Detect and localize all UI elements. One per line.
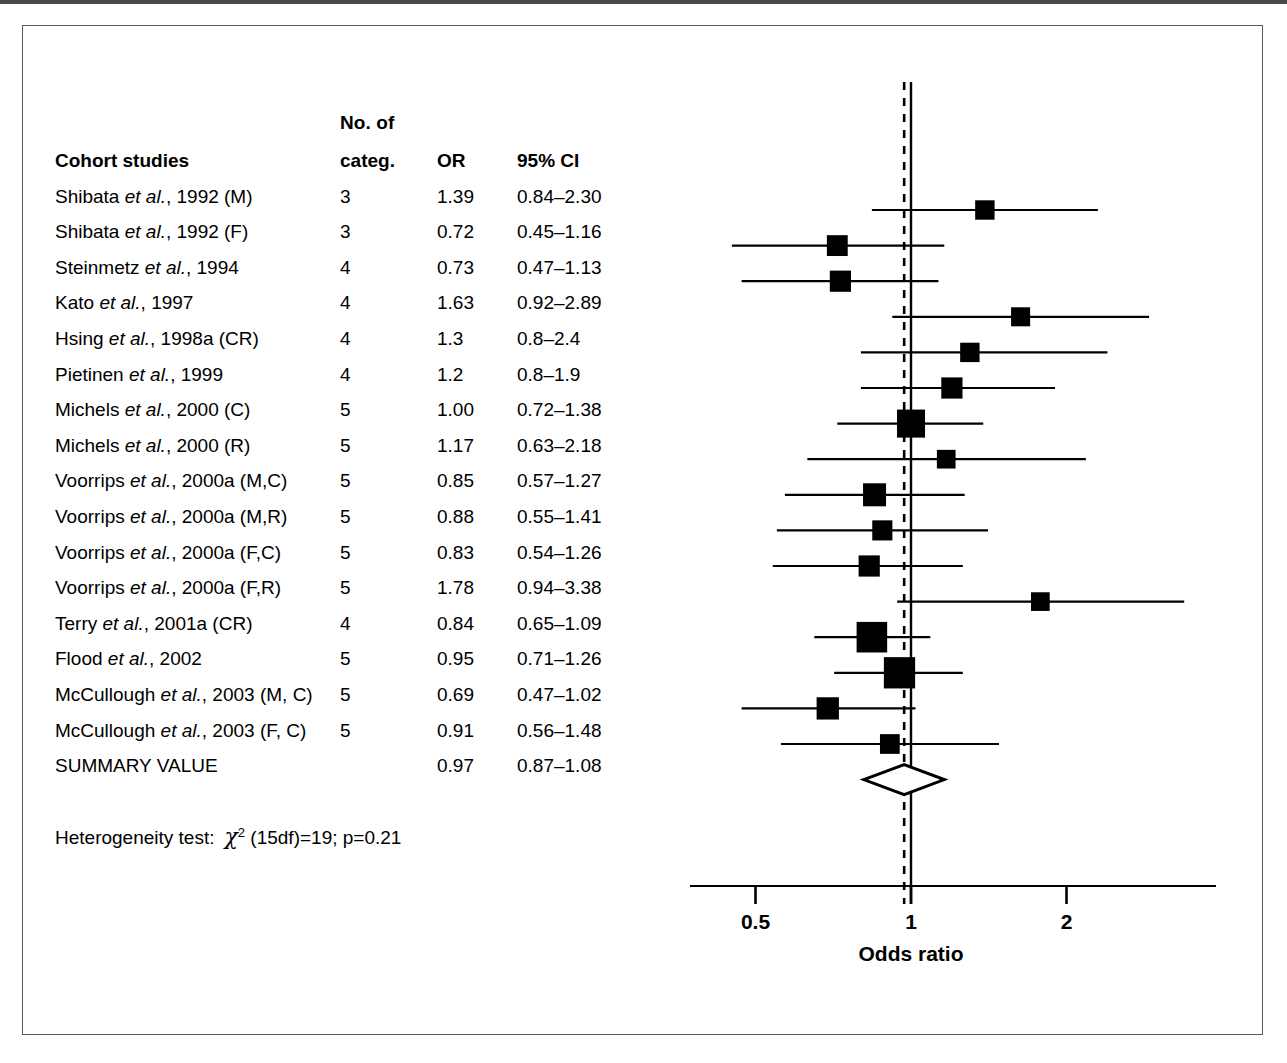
study-categories: 5 bbox=[340, 720, 351, 742]
study-confidence-interval: 0.56–1.48 bbox=[517, 720, 602, 742]
table-header-row: Cohort studiescateg.OR95% CI bbox=[55, 150, 655, 186]
study-categories: 4 bbox=[340, 257, 351, 279]
study-confidence-interval: 0.94–3.38 bbox=[517, 577, 602, 599]
study-confidence-interval: 0.57–1.27 bbox=[517, 470, 602, 492]
study-name: Steinmetz et al., 1994 bbox=[55, 257, 239, 279]
study-odds-ratio: 1.2 bbox=[437, 364, 463, 386]
table-row: Voorrips et al., 2000a (M,R)50.880.55–1.… bbox=[55, 506, 655, 542]
study-odds-ratio: 1.17 bbox=[437, 435, 474, 457]
study-categories: 5 bbox=[340, 542, 351, 564]
study-confidence-interval: 0.92–2.89 bbox=[517, 292, 602, 314]
table-row: Shibata et al., 1992 (F)30.720.45–1.16 bbox=[55, 221, 655, 257]
study-confidence-interval: 0.8–1.9 bbox=[517, 364, 580, 386]
study-odds-ratio: 0.69 bbox=[437, 684, 474, 706]
study-name: McCullough et al., 2003 (M, C) bbox=[55, 684, 313, 706]
study-odds-ratio: 0.91 bbox=[437, 720, 474, 742]
study-categories: 5 bbox=[340, 577, 351, 599]
table-row: Terry et al., 2001a (CR)40.840.65–1.09 bbox=[55, 613, 655, 649]
study-name: Kato et al., 1997 bbox=[55, 292, 193, 314]
study-odds-ratio: 1.39 bbox=[437, 186, 474, 208]
study-name: Shibata et al., 1992 (F) bbox=[55, 221, 248, 243]
study-categories: 3 bbox=[340, 186, 351, 208]
study-name: McCullough et al., 2003 (F, C) bbox=[55, 720, 306, 742]
study-confidence-interval: 0.8–2.4 bbox=[517, 328, 580, 350]
study-confidence-interval: 0.87–1.08 bbox=[517, 755, 602, 777]
study-name: Voorrips et al., 2000a (F,C) bbox=[55, 542, 281, 564]
study-categories: 4 bbox=[340, 364, 351, 386]
heterogeneity-label: Heterogeneity test: bbox=[55, 827, 214, 848]
study-categories: 4 bbox=[340, 292, 351, 314]
table-row: Voorrips et al., 2000a (M,C)50.850.57–1.… bbox=[55, 470, 655, 506]
study-name: Flood et al., 2002 bbox=[55, 648, 202, 670]
table-row: Flood et al., 200250.950.71–1.26 bbox=[55, 648, 655, 684]
study-name: Pietinen et al., 1999 bbox=[55, 364, 223, 386]
study-confidence-interval: 0.45–1.16 bbox=[517, 221, 602, 243]
heterogeneity-note: Heterogeneity test:χ2 (15df)=19; p=0.21 bbox=[55, 824, 401, 849]
table-row: Voorrips et al., 2000a (F,C)50.830.54–1.… bbox=[55, 542, 655, 578]
study-categories: 5 bbox=[340, 470, 351, 492]
table-row: Voorrips et al., 2000a (F,R)51.780.94–3.… bbox=[55, 577, 655, 613]
study-odds-ratio: 0.88 bbox=[437, 506, 474, 528]
study-confidence-interval: 0.47–1.13 bbox=[517, 257, 602, 279]
study-name: Michels et al., 2000 (R) bbox=[55, 435, 250, 457]
study-odds-ratio: 0.84 bbox=[437, 613, 474, 635]
study-odds-ratio: 1.63 bbox=[437, 292, 474, 314]
column-header-no-of: No. of bbox=[340, 112, 394, 134]
table-row: Steinmetz et al., 199440.730.47–1.13 bbox=[55, 257, 655, 293]
study-name: Voorrips et al., 2000a (M,R) bbox=[55, 506, 287, 528]
chi-exponent: 2 bbox=[238, 825, 245, 840]
study-odds-ratio: 0.97 bbox=[437, 755, 474, 777]
table-row: McCullough et al., 2003 (F, C)50.910.56–… bbox=[55, 720, 655, 756]
study-odds-ratio: 1.78 bbox=[437, 577, 474, 599]
table-row: Michels et al., 2000 (R)51.170.63–2.18 bbox=[55, 435, 655, 471]
study-categories: 5 bbox=[340, 399, 351, 421]
study-name: Hsing et al., 1998a (CR) bbox=[55, 328, 259, 350]
study-name: SUMMARY VALUE bbox=[55, 755, 218, 777]
study-categories: 4 bbox=[340, 613, 351, 635]
study-confidence-interval: 0.72–1.38 bbox=[517, 399, 602, 421]
study-odds-ratio: 0.73 bbox=[437, 257, 474, 279]
column-header-ci: 95% CI bbox=[517, 150, 579, 172]
study-odds-ratio: 0.83 bbox=[437, 542, 474, 564]
table-row: Pietinen et al., 199941.20.8–1.9 bbox=[55, 364, 655, 400]
study-name: Terry et al., 2001a (CR) bbox=[55, 613, 252, 635]
column-header-categ: categ. bbox=[340, 150, 395, 172]
study-odds-ratio: 0.72 bbox=[437, 221, 474, 243]
study-confidence-interval: 0.65–1.09 bbox=[517, 613, 602, 635]
study-name: Voorrips et al., 2000a (M,C) bbox=[55, 470, 287, 492]
table-row: Michels et al., 2000 (C)51.000.72–1.38 bbox=[55, 399, 655, 435]
column-header-or: OR bbox=[437, 150, 466, 172]
table-row: Shibata et al., 1992 (M)31.390.84–2.30 bbox=[55, 186, 655, 222]
study-confidence-interval: 0.71–1.26 bbox=[517, 648, 602, 670]
study-odds-ratio: 0.95 bbox=[437, 648, 474, 670]
column-header-cohort-studies: Cohort studies bbox=[55, 150, 189, 172]
table-row: Hsing et al., 1998a (CR)41.30.8–2.4 bbox=[55, 328, 655, 364]
study-categories: 5 bbox=[340, 506, 351, 528]
study-name: Shibata et al., 1992 (M) bbox=[55, 186, 253, 208]
study-odds-ratio: 1.00 bbox=[437, 399, 474, 421]
study-confidence-interval: 0.63–2.18 bbox=[517, 435, 602, 457]
study-confidence-interval: 0.84–2.30 bbox=[517, 186, 602, 208]
summary-row: SUMMARY VALUE0.970.87–1.08 bbox=[55, 755, 655, 791]
study-categories: 5 bbox=[340, 435, 351, 457]
chi-symbol: χ bbox=[224, 824, 237, 849]
study-categories: 4 bbox=[340, 328, 351, 350]
study-categories: 5 bbox=[340, 684, 351, 706]
study-confidence-interval: 0.54–1.26 bbox=[517, 542, 602, 564]
table-row: McCullough et al., 2003 (M, C)50.690.47–… bbox=[55, 684, 655, 720]
table-row: Kato et al., 199741.630.92–2.89 bbox=[55, 292, 655, 328]
study-categories: 5 bbox=[340, 648, 351, 670]
study-confidence-interval: 0.55–1.41 bbox=[517, 506, 602, 528]
page-top-rule bbox=[0, 0, 1287, 4]
study-name: Michels et al., 2000 (C) bbox=[55, 399, 250, 421]
study-odds-ratio: 1.3 bbox=[437, 328, 463, 350]
study-confidence-interval: 0.47–1.02 bbox=[517, 684, 602, 706]
heterogeneity-detail: (15df)=19; p=0.21 bbox=[250, 827, 401, 848]
study-odds-ratio: 0.85 bbox=[437, 470, 474, 492]
study-categories: 3 bbox=[340, 221, 351, 243]
study-name: Voorrips et al., 2000a (F,R) bbox=[55, 577, 281, 599]
